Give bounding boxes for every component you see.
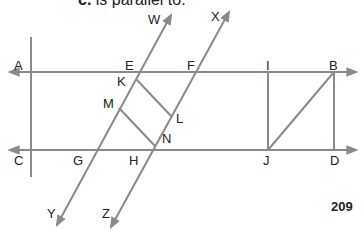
point-label-a: A — [14, 59, 23, 72]
point-label-j: J — [263, 154, 270, 167]
segment-jb — [268, 72, 334, 150]
line-wy — [57, 15, 171, 225]
point-label-e: E — [125, 59, 134, 72]
point-label-d: D — [330, 154, 339, 167]
point-label-y: Y — [47, 207, 56, 220]
point-label-l: L — [176, 112, 183, 125]
point-label-n: N — [162, 132, 171, 145]
point-label-x: X — [211, 10, 220, 23]
point-label-k: K — [117, 75, 126, 88]
point-label-h: H — [129, 154, 138, 167]
segment-mn — [119, 108, 155, 146]
segment-kl — [136, 79, 172, 117]
point-label-c: C — [14, 154, 23, 167]
page-number: 209 — [331, 199, 353, 214]
point-label-z: Z — [102, 207, 110, 220]
point-label-g: G — [73, 154, 83, 167]
point-label-i: I — [266, 59, 270, 72]
point-label-b: B — [329, 59, 338, 72]
point-label-w: W — [148, 13, 160, 26]
point-label-m: M — [103, 97, 114, 110]
point-label-f: F — [187, 59, 195, 72]
